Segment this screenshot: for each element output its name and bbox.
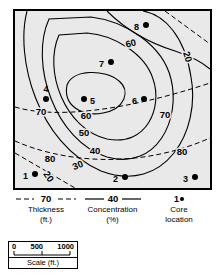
contour-label-text: 70 <box>160 109 171 120</box>
core-dot-icon <box>32 171 38 177</box>
contour-label-text: 40 <box>90 145 101 156</box>
contour-label: 40 40 <box>90 145 101 156</box>
contour-label: 70 70 <box>160 109 171 120</box>
core-dot-icon <box>192 174 198 180</box>
core-label: 2 <box>113 174 118 184</box>
contour-label: 80 80 <box>45 153 56 164</box>
core-legend-unit: location <box>165 215 193 225</box>
core-label: 1 <box>23 171 28 181</box>
concentration-legend-symbol: 40 <box>82 193 144 205</box>
contour-label: 60 60 <box>81 110 92 121</box>
core-dot-icon <box>43 96 49 102</box>
contour-label: 80 80 <box>177 146 188 157</box>
contour-label: 20 20 <box>181 50 195 63</box>
contour-map-svg: 60 60 50 50 40 40 30 30 60 60 <box>15 11 210 188</box>
concentration-legend-name: Concentration <box>88 205 138 215</box>
concentration-contour-50 <box>54 33 156 140</box>
thickness-contour-20-upper <box>165 11 210 44</box>
contour-label: 70 70 <box>36 106 47 117</box>
core-location-5[interactable]: 5 <box>81 96 95 106</box>
thickness-legend-name: Thickness <box>28 205 64 215</box>
core-label: 6 <box>132 96 137 106</box>
contour-label-text: 60 <box>124 36 137 49</box>
core-location-6[interactable]: 6 <box>132 96 147 106</box>
scale-ruler-graphic <box>13 251 73 256</box>
core-legend-value: 1 <box>174 194 179 204</box>
dashed-line-icon: 70 <box>15 193 77 205</box>
core-legend-name: Core <box>170 205 187 215</box>
scale-tick-500: 500 <box>30 242 43 251</box>
contour-label-text: 20 <box>181 50 195 63</box>
core-dot-icon <box>180 197 184 201</box>
core-label: 7 <box>99 59 104 69</box>
contour-label: 20 20 <box>41 169 56 184</box>
core-label: 5 <box>90 96 95 106</box>
thickness-legend-symbol: 70 <box>15 193 77 205</box>
contour-labels: 60 60 50 50 40 40 30 30 60 60 <box>36 36 195 183</box>
concentration-contour-label-group: 60 60 50 50 40 40 30 30 60 60 <box>71 36 138 172</box>
core-dot-icon <box>122 174 128 180</box>
contour-label: 60 60 <box>124 36 137 49</box>
contour-label-text: 50 <box>79 127 90 138</box>
scale-caption: Scale (ft.) <box>9 257 77 268</box>
contour-label-text: 80 <box>177 146 188 157</box>
scale-tick-0: 0 <box>12 242 16 251</box>
core-location-4[interactable]: 4 <box>43 84 49 102</box>
concentration-legend-unit: (%) <box>106 215 118 225</box>
core-location-3[interactable]: 3 <box>183 174 198 184</box>
contour-label: 50 50 <box>79 127 90 138</box>
contour-label-text: 20 <box>41 169 56 184</box>
core-legend-symbol: 1 <box>174 193 184 205</box>
contour-map-panel: 60 60 50 50 40 40 30 30 60 60 <box>13 9 212 190</box>
legend-item-core-location: 1 Core location <box>146 193 212 224</box>
contour-label-text: 80 <box>45 153 56 164</box>
core-location-7[interactable]: 7 <box>99 59 114 69</box>
scale-tick-1000: 1000 <box>57 242 74 251</box>
core-location-1[interactable]: 1 <box>23 171 38 181</box>
core-label: 8 <box>134 22 139 32</box>
concentration-contour-40 <box>42 17 173 159</box>
core-dot-icon <box>108 59 114 65</box>
thickness-legend-value: 70 <box>41 193 52 204</box>
core-label: 4 <box>43 84 48 94</box>
solid-line-icon: 40 <box>82 193 144 205</box>
thickness-legend-unit: (ft.) <box>40 215 52 225</box>
ruler-icon <box>13 251 73 256</box>
core-dot-icon <box>143 22 149 28</box>
contour-label-text: 70 <box>36 106 47 117</box>
concentration-contour-60-branch <box>107 11 210 69</box>
core-label: 3 <box>183 174 188 184</box>
legend-item-concentration: 40 Concentration (%) <box>80 193 146 224</box>
legend-item-thickness: 70 Thickness (ft.) <box>13 193 79 224</box>
map-legend: 70 Thickness (ft.) 40 Concentration (%) … <box>13 193 212 231</box>
scale-bar: 0 500 1000 Scale (ft.) <box>8 241 78 269</box>
concentration-contour-60 <box>66 72 125 113</box>
core-dot-icon <box>141 96 147 102</box>
scale-tick-labels: 0 500 1000 <box>9 242 77 251</box>
concentration-legend-value: 40 <box>107 193 118 204</box>
core-dot-icon <box>81 96 87 102</box>
core-location-8[interactable]: 8 <box>134 22 149 32</box>
contour-label-text: 60 <box>81 110 92 121</box>
